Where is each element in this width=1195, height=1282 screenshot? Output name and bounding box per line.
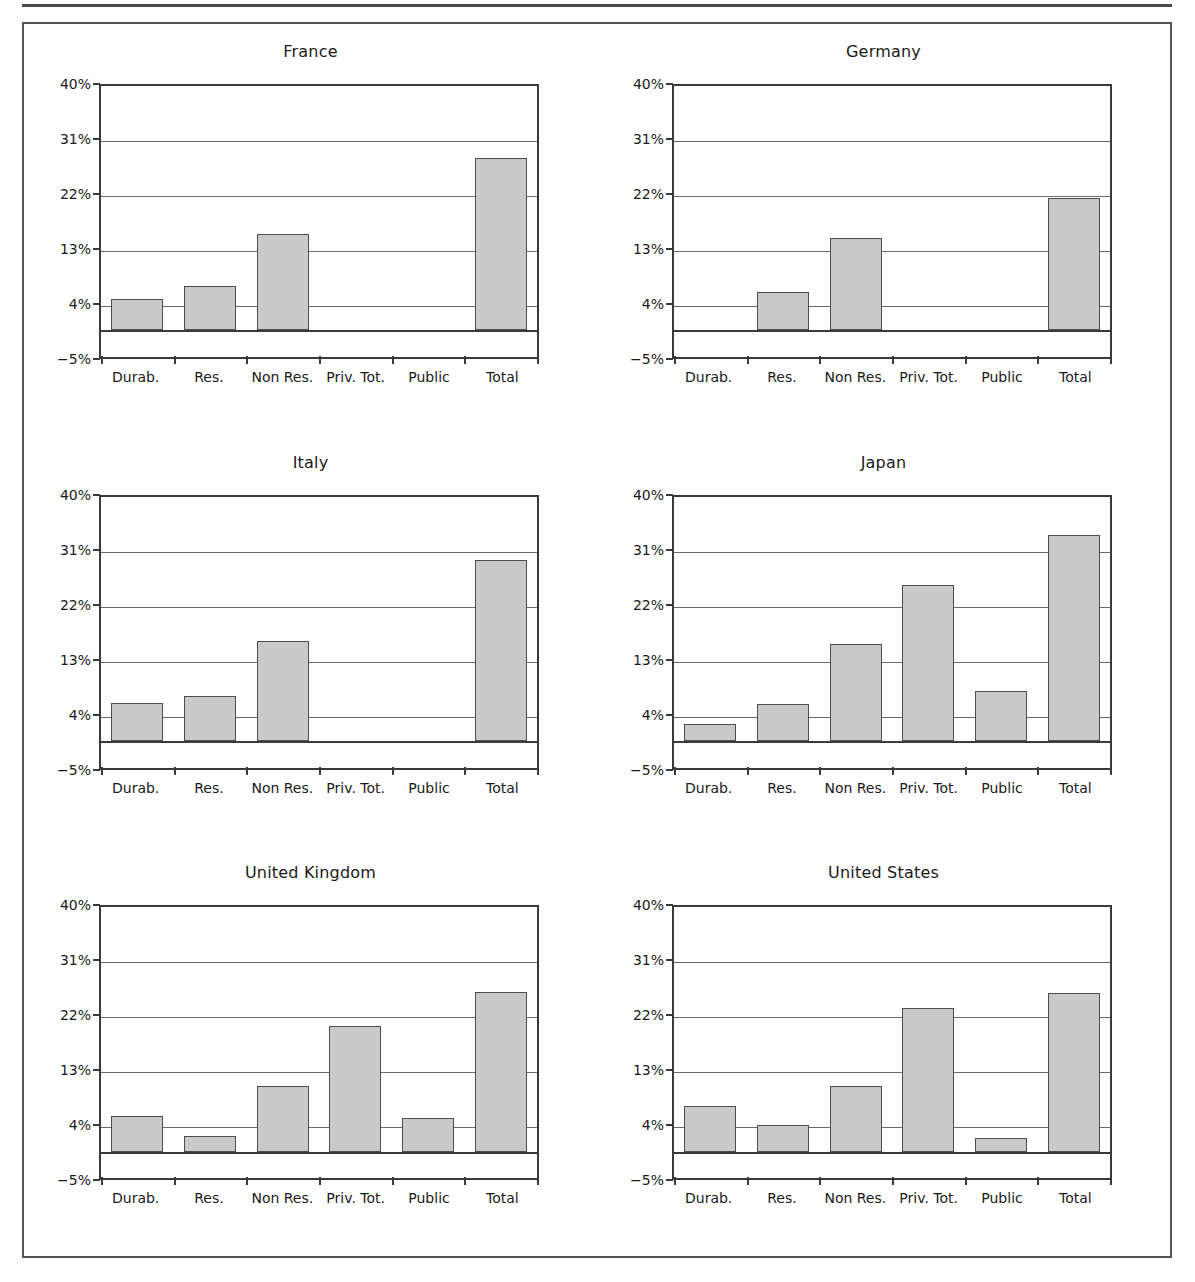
y-tick-label: 4% <box>642 1117 664 1133</box>
x-tick-mark <box>246 356 248 364</box>
x-tick-label: Res. <box>194 780 223 796</box>
plot-area <box>99 84 539 359</box>
x-tick-label: Total <box>1059 780 1092 796</box>
plot-area <box>99 495 539 770</box>
x-tick-mark <box>747 1177 749 1185</box>
x-tick-mark <box>819 1177 821 1185</box>
bar <box>475 992 527 1152</box>
bar <box>902 1008 954 1152</box>
y-tick-mark <box>93 193 100 195</box>
x-tick-label: Priv. Tot. <box>899 369 958 385</box>
y-tick-label: 13% <box>60 1062 91 1078</box>
y-tick-label: 4% <box>69 1117 91 1133</box>
y-gridline <box>674 1127 1110 1128</box>
y-tick-label: 4% <box>642 296 664 312</box>
y-tick-mark <box>666 358 673 360</box>
y-tick-label: 31% <box>60 542 91 558</box>
y-gridline <box>674 1072 1110 1073</box>
y-tick-label: −5% <box>630 1172 664 1188</box>
x-tick-label: Non Res. <box>251 1190 313 1206</box>
bar <box>475 560 527 742</box>
y-tick-label: 31% <box>60 952 91 968</box>
y-tick-label: 22% <box>633 186 664 202</box>
x-tick-mark <box>1037 356 1039 364</box>
plot: 40%31%22%13%4%−5%Durab.Res.Non Res.Priv.… <box>99 495 539 770</box>
bar <box>757 1125 809 1151</box>
y-gridline <box>674 662 1110 663</box>
x-tick-label: Public <box>981 780 1022 796</box>
x-tick-label: Non Res. <box>251 780 313 796</box>
y-gridline <box>101 1017 537 1018</box>
x-tick-mark <box>392 767 394 775</box>
x-tick-mark <box>174 767 176 775</box>
y-gridline <box>101 662 537 663</box>
y-gridline <box>674 1017 1110 1018</box>
chart-panel: Italy40%31%22%13%4%−5%Durab.Res.Non Res.… <box>24 435 597 846</box>
bar <box>975 691 1027 741</box>
x-tick-label: Total <box>486 780 519 796</box>
y-tick-label: 13% <box>633 241 664 257</box>
zero-baseline <box>674 741 1110 743</box>
y-tick-mark <box>666 1014 673 1016</box>
x-tick-mark <box>674 356 676 364</box>
plot: 40%31%22%13%4%−5%Durab.Res.Non Res.Priv.… <box>99 84 539 359</box>
y-tick-label: −5% <box>57 351 91 367</box>
y-tick-label: 31% <box>60 131 91 147</box>
panel-title: United Kingdom <box>24 863 597 882</box>
x-tick-label: Total <box>1059 1190 1092 1206</box>
y-tick-mark <box>666 1124 673 1126</box>
y-tick-mark <box>93 904 100 906</box>
x-tick-mark <box>674 1177 676 1185</box>
x-tick-mark <box>101 356 103 364</box>
x-tick-mark <box>747 356 749 364</box>
page-top-rule <box>22 4 1172 7</box>
bar <box>257 234 309 331</box>
panel-title: Japan <box>597 453 1170 472</box>
x-tick-label: Priv. Tot. <box>326 369 385 385</box>
y-tick-label: 31% <box>633 131 664 147</box>
y-gridline <box>674 607 1110 608</box>
x-tick-mark <box>819 767 821 775</box>
panel-title: United States <box>597 863 1170 882</box>
x-tick-label: Durab. <box>685 780 732 796</box>
y-tick-mark <box>666 83 673 85</box>
x-tick-mark <box>537 767 539 775</box>
x-tick-mark <box>892 767 894 775</box>
bar <box>902 585 954 741</box>
bar <box>975 1138 1027 1151</box>
y-tick-label: 13% <box>60 652 91 668</box>
y-tick-label: 13% <box>60 241 91 257</box>
x-tick-label: Durab. <box>685 369 732 385</box>
y-tick-label: 40% <box>60 897 91 913</box>
x-tick-mark <box>1110 356 1112 364</box>
bar <box>757 704 809 741</box>
y-gridline <box>101 1072 537 1073</box>
y-tick-mark <box>93 138 100 140</box>
bar <box>402 1118 454 1152</box>
y-gridline <box>101 552 537 553</box>
y-gridline <box>101 962 537 963</box>
y-tick-mark <box>666 303 673 305</box>
y-tick-label: −5% <box>630 351 664 367</box>
bar <box>684 1106 736 1152</box>
zero-baseline <box>101 330 537 332</box>
y-tick-mark <box>93 549 100 551</box>
zero-baseline <box>674 330 1110 332</box>
y-gridline <box>674 552 1110 553</box>
x-tick-mark <box>101 767 103 775</box>
y-tick-label: 4% <box>69 296 91 312</box>
y-tick-label: −5% <box>630 762 664 778</box>
y-tick-mark <box>93 1124 100 1126</box>
plot: 40%31%22%13%4%−5%Durab.Res.Non Res.Priv.… <box>672 84 1112 359</box>
y-tick-label: 40% <box>633 487 664 503</box>
x-tick-label: Durab. <box>112 369 159 385</box>
y-tick-mark <box>93 1069 100 1071</box>
bar <box>184 696 236 741</box>
y-tick-mark <box>93 1179 100 1181</box>
zero-baseline <box>101 741 537 743</box>
bar <box>257 641 309 741</box>
y-tick-mark <box>666 549 673 551</box>
x-tick-label: Res. <box>767 1190 796 1206</box>
bar <box>257 1086 309 1151</box>
x-tick-label: Priv. Tot. <box>899 1190 958 1206</box>
